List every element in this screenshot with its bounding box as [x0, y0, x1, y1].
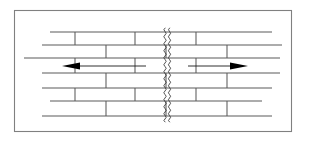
brick-wall-crack-diagram	[0, 0, 312, 141]
diagram-frame	[15, 11, 292, 132]
figure-root	[0, 0, 312, 141]
